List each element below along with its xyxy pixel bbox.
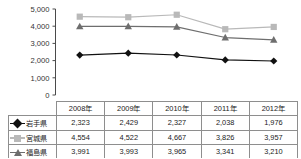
series-diamond xyxy=(76,50,277,65)
data-point-marker xyxy=(125,14,131,20)
y-tick-label: 4,000 xyxy=(30,22,49,31)
data-point-marker xyxy=(173,51,180,58)
table-row: 岩手県2,3232,4292,3272,0381,976 xyxy=(9,116,298,131)
table-cell: 4,667 xyxy=(153,130,201,145)
y-tick-label: 2,000 xyxy=(30,56,49,65)
data-point-marker xyxy=(125,50,132,57)
table-cell: 3,210 xyxy=(249,145,297,158)
table-header-row: 2008年 2009年 2010年 2011年 2012年 xyxy=(9,102,298,116)
table-cell: 2,327 xyxy=(153,116,201,131)
chart-svg: 01,0002,0003,0004,0005,000 xyxy=(0,0,301,104)
data-point-marker xyxy=(271,24,277,30)
series-triangle xyxy=(76,23,277,43)
data-point-marker xyxy=(222,56,229,63)
table-cell: 4,554 xyxy=(57,130,105,145)
table-cell: 3,826 xyxy=(201,130,249,145)
y-axis-tick-labels: 01,0002,0003,0004,0005,000 xyxy=(30,5,49,100)
legend-cell: 岩手県 xyxy=(9,116,57,131)
y-axis xyxy=(53,9,56,95)
data-point-marker xyxy=(76,51,83,58)
column-header: 2009年 xyxy=(105,102,153,116)
table-cell: 2,323 xyxy=(57,116,105,131)
column-header: 2011年 xyxy=(201,102,249,116)
table-cell: 2,038 xyxy=(201,116,249,131)
legend-label: 岩手県 xyxy=(26,119,46,128)
table-cell: 3,341 xyxy=(201,145,249,158)
legend-cell: 宮城県 xyxy=(9,130,57,145)
y-tick-label: 0 xyxy=(45,91,49,100)
chart-figure: 01,0002,0003,0004,0005,000 2008年 2009年 2… xyxy=(0,0,301,158)
column-header: 2012年 xyxy=(249,102,297,116)
table-cell: 3,957 xyxy=(249,130,297,145)
table-cell: 2,429 xyxy=(105,116,153,131)
legend-cell: 福島県 xyxy=(9,145,57,158)
triangle-marker-icon xyxy=(10,148,25,157)
series-layer xyxy=(76,12,277,65)
data-table-wrap: 2008年 2009年 2010年 2011年 2012年 岩手県2,3232,… xyxy=(8,101,298,158)
table-cell: 3,991 xyxy=(57,145,105,158)
line-chart-plot: 01,0002,0003,0004,0005,000 xyxy=(0,0,301,104)
y-tick-label: 1,000 xyxy=(30,74,49,83)
diamond-marker-icon xyxy=(10,119,25,128)
table-cell: 3,965 xyxy=(153,145,201,158)
table-cell: 4,522 xyxy=(105,130,153,145)
table-row: 宮城県4,5544,5224,6673,8263,957 xyxy=(9,130,298,145)
table-row: 福島県3,9913,9933,9653,3413,210 xyxy=(9,145,298,158)
y-tick-label: 3,000 xyxy=(30,39,49,48)
column-header: 2010年 xyxy=(153,102,201,116)
data-point-marker xyxy=(77,14,83,20)
data-table: 2008年 2009年 2010年 2011年 2012年 岩手県2,3232,… xyxy=(8,101,298,158)
column-header: 2008年 xyxy=(57,102,105,116)
legend-label: 福島県 xyxy=(26,148,46,157)
y-tick-label: 5,000 xyxy=(30,5,49,14)
legend-label: 宮城県 xyxy=(26,133,46,142)
table-cell: 3,993 xyxy=(105,145,153,158)
data-point-marker xyxy=(270,57,277,64)
data-point-marker xyxy=(222,26,228,32)
table-corner-cell xyxy=(9,102,57,116)
table-body: 岩手県2,3232,4292,3272,0381,976宮城県4,5544,52… xyxy=(9,116,298,159)
data-point-marker xyxy=(174,12,180,18)
square-marker-icon xyxy=(10,133,25,142)
table-cell: 1,976 xyxy=(249,116,297,131)
